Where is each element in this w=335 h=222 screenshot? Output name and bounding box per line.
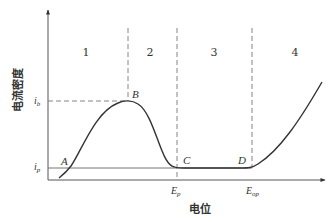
- region-label-3: 3: [211, 46, 218, 59]
- region-label-2: 2: [147, 46, 154, 59]
- region-label-4: 4: [292, 46, 299, 59]
- polarization-curve-diagram: 1 2 3 4 A B C D ib ip Ep Eop 电位 电流密度: [0, 0, 335, 222]
- point-label-A: A: [60, 155, 68, 167]
- y-tick-ip: ip: [34, 161, 41, 174]
- region-label-1: 1: [83, 46, 90, 59]
- point-label-D: D: [237, 154, 246, 166]
- y-axis-title: 电流密度: [11, 67, 25, 112]
- point-label-B: B: [132, 88, 139, 100]
- x-tick-Ep: Ep: [170, 185, 181, 198]
- polarization-curve: [59, 82, 322, 178]
- x-tick-Eop: Eop: [245, 185, 260, 198]
- x-axis-title: 电位: [189, 202, 211, 216]
- point-label-C: C: [183, 154, 191, 166]
- y-tick-ib: ib: [34, 95, 41, 108]
